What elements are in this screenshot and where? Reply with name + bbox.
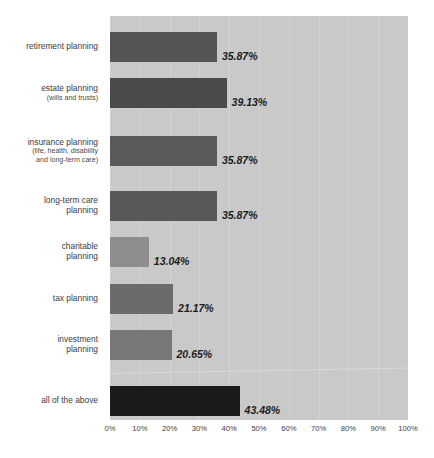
bar-6[interactable] <box>110 330 172 360</box>
category-label-sub-2: and long-term care) <box>0 156 98 164</box>
category-label-main-1: estate planning <box>0 84 98 94</box>
category-label-3: long-term careplanning <box>0 196 98 216</box>
category-label-sub-3: planning <box>0 206 98 216</box>
category-label-4: charitableplanning <box>0 242 98 262</box>
x-tick-label-0: 0% <box>105 424 116 433</box>
bar-1[interactable] <box>110 78 227 108</box>
plot-inner: 35.87%39.13%35.87%35.87%13.04%21.17%20.6… <box>110 16 408 420</box>
category-label-0: retirement planning <box>0 42 98 52</box>
gridline-60 <box>289 16 290 420</box>
value-label-5: 21.17% <box>178 302 214 314</box>
plot-area: 35.87%39.13%35.87%35.87%13.04%21.17%20.6… <box>110 16 408 420</box>
category-label-main-2: insurance planning <box>0 138 98 148</box>
gridline-50 <box>259 16 260 420</box>
category-label-main-5: tax planning <box>0 294 98 304</box>
value-label-1: 39.13% <box>232 96 268 108</box>
bar-7[interactable] <box>110 386 240 416</box>
value-label-2: 35.87% <box>222 154 258 166</box>
category-label-1: estate planning(wills and trusts) <box>0 84 98 102</box>
category-axis-labels: retirement planningestate planning(wills… <box>0 16 104 420</box>
x-axis-ticks: 0%10%20%30%40%50%60%70%80%90%100% <box>110 424 408 440</box>
category-label-main-7: all of the above <box>0 396 98 406</box>
category-label-5: tax planning <box>0 294 98 304</box>
bar-5[interactable] <box>110 284 173 314</box>
x-tick-label-100: 100% <box>398 424 417 433</box>
bar-4[interactable] <box>110 237 149 267</box>
value-label-7: 43.48% <box>245 404 281 416</box>
category-label-2: insurance planning(life, health, disabil… <box>0 138 98 165</box>
category-label-7: all of the above <box>0 396 98 406</box>
bar-0[interactable] <box>110 32 217 62</box>
x-tick-label-80: 80% <box>341 424 356 433</box>
category-label-sub-6: planning <box>0 345 98 355</box>
value-label-6: 20.65% <box>177 348 213 360</box>
category-label-main-0: retirement planning <box>0 42 98 52</box>
category-label-6: investmentplanning <box>0 335 98 355</box>
x-tick-label-30: 30% <box>192 424 207 433</box>
value-label-0: 35.87% <box>222 50 258 62</box>
category-label-sub-1: (wills and trusts) <box>0 94 98 102</box>
x-tick-label-60: 60% <box>281 424 296 433</box>
category-label-sub-4: planning <box>0 252 98 262</box>
gridline-90 <box>378 16 379 420</box>
horizontal-bar-chart: retirement planningestate planning(wills… <box>0 0 434 458</box>
value-label-3: 35.87% <box>222 209 258 221</box>
x-tick-label-20: 20% <box>162 424 177 433</box>
x-tick-label-70: 70% <box>311 424 326 433</box>
value-label-4: 13.04% <box>154 255 190 267</box>
x-tick-label-50: 50% <box>251 424 266 433</box>
gridline-70 <box>319 16 320 420</box>
gridline-80 <box>348 16 349 420</box>
bar-2[interactable] <box>110 136 217 166</box>
bar-3[interactable] <box>110 191 217 221</box>
x-tick-label-10: 10% <box>132 424 147 433</box>
x-tick-label-40: 40% <box>222 424 237 433</box>
category-label-sub-2: (life, health, disability <box>0 147 98 155</box>
x-tick-label-90: 90% <box>371 424 386 433</box>
